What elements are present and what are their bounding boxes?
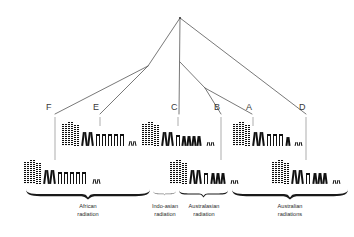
chromosome xyxy=(76,172,80,184)
chromatid xyxy=(267,134,271,136)
chromatid xyxy=(157,125,159,146)
chromatid xyxy=(65,124,67,146)
chromosome xyxy=(299,142,302,146)
tip-label-F: F xyxy=(46,103,52,112)
chromosome xyxy=(148,122,153,146)
chromatid xyxy=(145,124,147,146)
chromosome xyxy=(176,135,180,146)
chromosome xyxy=(239,122,244,146)
chromatid xyxy=(76,172,77,184)
chromosome xyxy=(279,134,283,146)
chromosome xyxy=(58,172,62,184)
chromatid xyxy=(142,124,144,146)
edge-trunk-rightnode xyxy=(180,62,205,88)
chromosome xyxy=(272,162,277,184)
chromatid xyxy=(248,125,250,146)
chromatid xyxy=(204,173,208,175)
chromosome xyxy=(216,173,220,184)
chromatid xyxy=(309,173,310,184)
chromatid xyxy=(102,134,103,146)
chromosome xyxy=(197,136,201,146)
chromatid xyxy=(273,134,274,146)
chromatid xyxy=(273,134,277,136)
chromosome xyxy=(235,180,238,184)
chromosome xyxy=(278,160,283,184)
chromatid xyxy=(148,122,150,146)
chromatid xyxy=(279,134,283,136)
chromatid xyxy=(272,162,274,184)
chromatid xyxy=(154,125,156,146)
chromosome xyxy=(142,124,147,146)
chromatid xyxy=(176,135,177,146)
chromosome xyxy=(267,134,271,146)
chromosome xyxy=(64,172,68,184)
chromosome xyxy=(211,142,214,146)
chromosome xyxy=(97,179,100,184)
chromatid xyxy=(105,134,106,146)
group-label-australasian: Australasian radiation xyxy=(177,202,231,218)
chromatid xyxy=(96,134,100,136)
chromatid xyxy=(173,162,175,184)
chromosome xyxy=(168,132,173,146)
chromosome xyxy=(96,134,100,146)
chromosome xyxy=(162,132,167,146)
chromatid xyxy=(170,162,172,184)
group-label-australasian-line1: Australasian xyxy=(177,202,231,210)
chromosome xyxy=(196,170,201,184)
chromatid xyxy=(64,172,68,174)
edge-apex-D xyxy=(180,18,306,114)
chromosome xyxy=(108,134,112,146)
chromosome xyxy=(154,125,159,146)
chromatid xyxy=(204,173,205,184)
brace-australian xyxy=(232,189,348,200)
chromosome xyxy=(176,160,181,184)
chromatid xyxy=(120,134,121,146)
chromosome xyxy=(182,163,187,184)
chromosome xyxy=(253,132,258,146)
edge-leftnode-E xyxy=(100,66,148,114)
chromosome xyxy=(68,122,73,146)
chromatid xyxy=(176,160,178,184)
chromatid xyxy=(281,160,283,184)
chromosome xyxy=(313,173,317,184)
chromatid xyxy=(270,134,271,146)
chromosome xyxy=(337,180,340,184)
chromosome xyxy=(82,132,87,146)
chromatid xyxy=(233,124,235,146)
chromatid xyxy=(79,172,80,184)
chromatid xyxy=(36,163,38,184)
chromatid xyxy=(70,172,74,174)
chromosome xyxy=(245,125,250,146)
chromosome xyxy=(24,162,29,184)
chromosome xyxy=(323,173,327,184)
chromosome xyxy=(306,173,310,184)
chromatid xyxy=(185,163,187,184)
edge-apex-leftnode xyxy=(148,18,180,66)
chromatid xyxy=(82,172,86,174)
chromatid xyxy=(77,125,79,146)
chromatid xyxy=(236,124,238,146)
brace-australasian xyxy=(179,190,228,198)
tip-label-A: A xyxy=(246,103,252,112)
chromosome xyxy=(120,134,124,146)
chromatid xyxy=(245,125,247,146)
chromatid xyxy=(117,134,118,146)
chromatid xyxy=(182,163,184,184)
chromosome xyxy=(187,136,191,146)
chromatid xyxy=(276,134,277,146)
chromosome xyxy=(70,172,74,184)
chromatid xyxy=(85,172,86,184)
chromosome xyxy=(318,173,322,184)
chromatid xyxy=(58,172,62,174)
chromatid xyxy=(242,122,244,146)
group-label-african: African radiation xyxy=(26,202,150,218)
chromatid xyxy=(267,134,268,146)
chromatid xyxy=(73,172,74,184)
root-node-dot xyxy=(179,17,181,19)
edge-rightnode-A xyxy=(205,88,252,114)
chromatid xyxy=(275,162,277,184)
chromatid xyxy=(114,134,115,146)
chromatid xyxy=(82,172,83,184)
chromosome xyxy=(74,125,79,146)
chromatid xyxy=(74,125,76,146)
